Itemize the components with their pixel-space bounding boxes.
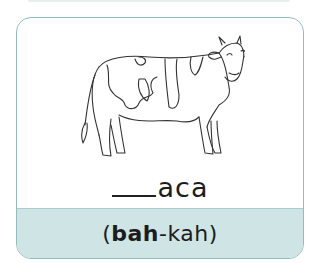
- stressed-syllable: bah: [111, 221, 159, 246]
- flashcard: aca (bah-kah): [16, 17, 304, 259]
- answer-blank[interactable]: [112, 195, 156, 197]
- previous-card-edge: [28, 0, 290, 2]
- pronunciation-band: (bah-kah): [17, 208, 303, 258]
- cow-icon: [79, 35, 245, 161]
- pronunciation: (bah-kah): [102, 221, 218, 246]
- word-suffix: aca: [158, 173, 209, 203]
- word-prompt: aca: [17, 169, 303, 203]
